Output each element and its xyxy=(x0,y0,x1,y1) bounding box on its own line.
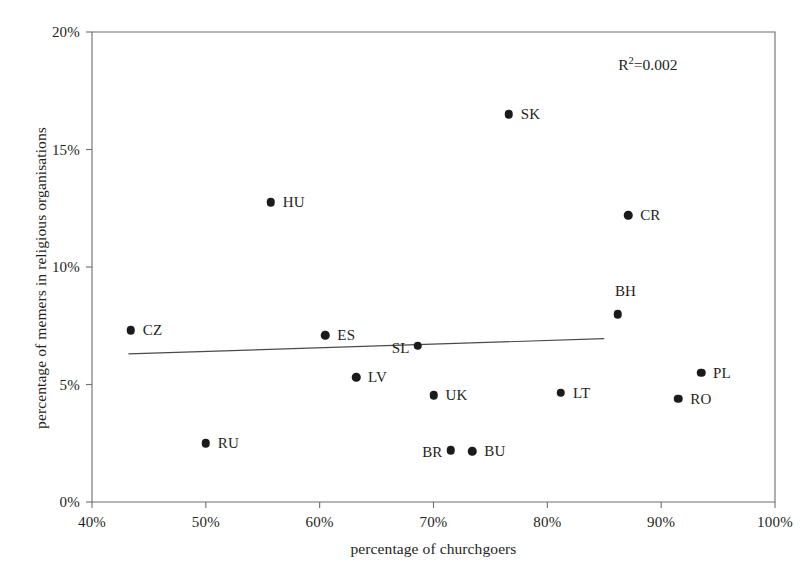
data-point-ru xyxy=(202,439,211,448)
y-tick-label: 5% xyxy=(26,376,80,393)
scatter-chart-figure: percentage of memers in religious organi… xyxy=(0,0,812,576)
x-tick-label: 40% xyxy=(57,514,127,531)
x-tick-label: 80% xyxy=(512,514,582,531)
point-label-cr: CR xyxy=(640,207,660,224)
tick-marks xyxy=(86,32,775,508)
point-label-uk: UK xyxy=(446,387,468,404)
point-label-pl: PL xyxy=(713,364,731,381)
y-tick-label: 20% xyxy=(26,24,80,41)
point-label-br: BR xyxy=(422,444,442,461)
x-tick-label: 60% xyxy=(285,514,355,531)
point-label-sl: SL xyxy=(392,339,410,356)
plot-canvas xyxy=(0,0,812,576)
data-point-pl xyxy=(697,369,706,378)
point-label-hu: HU xyxy=(283,194,305,211)
data-point-sk xyxy=(504,110,513,119)
x-tick-label: 50% xyxy=(171,514,241,531)
axis-frame xyxy=(92,32,775,502)
point-label-ru: RU xyxy=(218,435,239,452)
x-tick-label: 100% xyxy=(740,514,810,531)
x-tick-label: 70% xyxy=(399,514,469,531)
point-label-bh: BH xyxy=(615,283,636,300)
data-point-cz xyxy=(126,326,135,335)
point-label-sk: SK xyxy=(521,106,541,123)
y-tick-label: 0% xyxy=(26,494,80,511)
data-point-lt xyxy=(557,388,566,397)
point-label-lt: LT xyxy=(573,384,590,401)
point-label-ro: RO xyxy=(690,390,711,407)
data-point-bh xyxy=(614,310,623,319)
point-label-cz: CZ xyxy=(143,322,163,339)
point-label-bu: BU xyxy=(484,443,505,460)
x-tick-label: 90% xyxy=(626,514,696,531)
y-axis-label: percentage of memers in religious organi… xyxy=(32,43,58,513)
data-point-ro xyxy=(674,394,683,403)
data-point-cr xyxy=(624,211,633,220)
data-point-uk xyxy=(429,391,438,400)
y-tick-label: 15% xyxy=(26,141,80,158)
point-label-lv: LV xyxy=(368,369,387,386)
data-point-hu xyxy=(266,198,275,207)
y-tick-label: 10% xyxy=(26,259,80,276)
r-squared-annotation: R2=0.002 xyxy=(618,55,677,74)
data-point-lv xyxy=(352,373,361,382)
point-label-es: ES xyxy=(337,327,355,344)
data-point-bu xyxy=(468,447,477,456)
x-axis-label: percentage of churchgoers xyxy=(92,540,775,558)
data-point-sl xyxy=(413,341,422,350)
trend-line xyxy=(128,339,604,354)
data-point-br xyxy=(446,446,455,455)
data-point-es xyxy=(321,331,330,340)
